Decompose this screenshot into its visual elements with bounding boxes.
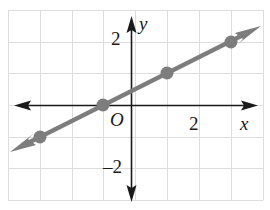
y-tick-label-neg-2: –2 — [103, 157, 122, 176]
x-axis-label: x — [240, 114, 248, 133]
graph-figure: y x 2 –2 2 O — [0, 0, 270, 210]
data-point — [225, 36, 238, 49]
y-axis-label: y — [139, 14, 147, 33]
y-tick-label-2: 2 — [111, 29, 121, 48]
coordinate-plane-svg — [0, 0, 270, 210]
x-tick-label-2: 2 — [189, 114, 199, 133]
data-point — [161, 67, 174, 80]
origin-label: O — [110, 110, 124, 129]
data-point — [97, 99, 110, 112]
data-point — [34, 131, 47, 144]
line-arrow-upper-right — [235, 26, 261, 44]
line-arrow-lower-left — [10, 134, 36, 152]
